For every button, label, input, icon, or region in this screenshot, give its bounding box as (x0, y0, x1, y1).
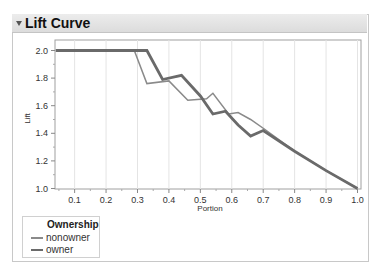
y-tick-label: 1.2 (35, 156, 48, 166)
y-axis-label: Lift (23, 112, 32, 123)
y-tick-label: 1.4 (35, 128, 48, 138)
legend-swatch (31, 249, 43, 251)
y-tick-label: 1.8 (35, 73, 48, 83)
x-tick-label: 0.2 (100, 195, 113, 205)
x-tick-label: 0.9 (320, 195, 333, 205)
y-tick-label: 2.0 (35, 46, 48, 56)
plot-frame (55, 40, 361, 189)
x-tick-label: 0.7 (257, 195, 270, 205)
legend-item-owner[interactable]: owner (31, 244, 73, 255)
legend-label: owner (46, 244, 73, 255)
y-tick-label: 1.6 (35, 101, 48, 111)
x-tick-label: 0.4 (163, 195, 176, 205)
legend-title: Ownership (47, 219, 99, 230)
x-tick-label: 0.6 (226, 195, 239, 205)
legend: Ownership nonowner owner (22, 216, 100, 258)
y-tick-label: 1.0 (35, 184, 48, 194)
x-axis-label: Portion (197, 204, 222, 213)
x-tick-label: 0.1 (68, 195, 81, 205)
x-tick-label: 0.3 (131, 195, 144, 205)
legend-item-nonowner[interactable]: nonowner (31, 232, 90, 243)
legend-swatch (31, 237, 43, 239)
x-tick-label: 0.8 (288, 195, 301, 205)
legend-label: nonowner (46, 232, 90, 243)
x-tick-label: 1.0 (351, 195, 364, 205)
